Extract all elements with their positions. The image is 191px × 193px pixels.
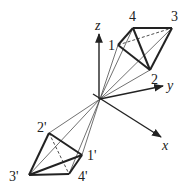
upper-tetrahedron xyxy=(118,28,172,70)
lower-tetrahedron xyxy=(29,133,82,175)
vertex-label-1: 1 xyxy=(108,38,115,53)
tetrahedra-diagram: z y x 1 2 3 4 1' 2' 3' 4' xyxy=(0,0,191,193)
vertex-label-2: 2 xyxy=(151,72,158,87)
y-axis xyxy=(100,86,163,99)
y-axis-label: y xyxy=(165,78,174,93)
z-axis-label: z xyxy=(94,18,101,33)
vertex-label-4-prime: 4' xyxy=(78,169,88,184)
vertex-label-3-prime: 3' xyxy=(9,169,19,184)
vertex-label-2-prime: 2' xyxy=(37,120,47,135)
vertex-label-1-prime: 1' xyxy=(87,148,97,163)
vertex-label-4: 4 xyxy=(129,9,136,24)
lower-rays xyxy=(29,99,100,175)
x-axis xyxy=(93,94,161,137)
x-axis-label: x xyxy=(161,138,169,153)
vertex-label-3: 3 xyxy=(171,9,178,24)
